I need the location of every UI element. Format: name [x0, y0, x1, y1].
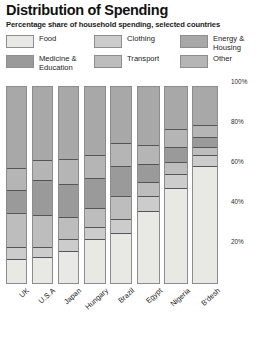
- y-tick-60: 60%: [231, 159, 244, 165]
- segment-clothing: [193, 156, 217, 168]
- legend-item-medicine-education[interactable]: Medicine & Education: [6, 54, 77, 72]
- segment-transport: [111, 197, 131, 221]
- x-axis-labels: UKU.S.AJapanHungaryBrazilEgyptNigeriaB'd…: [0, 286, 255, 338]
- y-axis: 100%80%60%40%20%: [231, 84, 255, 284]
- x-label-egypt: Egypt: [144, 286, 164, 305]
- segment-medicine-education: [7, 191, 26, 215]
- segment-clothing: [138, 197, 159, 213]
- spending-chart: Distribution of Spending Percentage shar…: [0, 0, 255, 338]
- segment-energy-housing: [59, 87, 78, 160]
- legend-label-clothing: Clothing: [127, 34, 155, 44]
- segment-clothing: [111, 220, 131, 234]
- segment-transport: [165, 163, 187, 175]
- legend-swatch-transport: [94, 55, 122, 68]
- segment-medicine-education: [165, 148, 187, 164]
- bar-japan[interactable]: [58, 86, 79, 284]
- segment-energy-housing: [85, 87, 105, 156]
- x-label-nigeria: Nigeria: [169, 286, 192, 308]
- bar-uk[interactable]: [6, 86, 27, 284]
- segment-clothing: [165, 175, 187, 189]
- segment-other: [85, 156, 105, 180]
- legend-label-energy-housing: Energy & Housing: [213, 34, 244, 52]
- segment-energy-housing: [193, 87, 217, 126]
- x-label-japan: Japan: [62, 286, 83, 306]
- x-label-hungary: Hungary: [83, 286, 110, 311]
- segment-energy-housing: [33, 87, 52, 161]
- segment-medicine-education: [193, 138, 217, 148]
- legend-swatch-other: [180, 55, 208, 68]
- segment-food: [111, 234, 131, 283]
- y-tick-100: 100%: [231, 79, 247, 85]
- legend-item-other[interactable]: Other: [180, 54, 232, 68]
- segment-medicine-education: [85, 179, 105, 208]
- y-tick-40: 40%: [231, 199, 244, 205]
- segment-transport: [138, 183, 159, 197]
- segment-food: [59, 252, 78, 283]
- segment-transport: [7, 214, 26, 247]
- segment-energy-housing: [7, 87, 26, 169]
- y-tick-80: 80%: [231, 119, 244, 125]
- y-tick-20: 20%: [231, 239, 244, 245]
- segment-other: [193, 126, 217, 138]
- segment-medicine-education: [33, 181, 52, 216]
- x-label-uk: UK: [17, 286, 31, 300]
- segment-clothing: [7, 248, 26, 260]
- legend-label-transport: Transport: [127, 54, 159, 64]
- chart-legend: Food Medicine & Education Clothing Trans…: [6, 34, 249, 76]
- segment-medicine-education: [138, 165, 159, 183]
- legend-swatch-medicine-education: [6, 55, 34, 68]
- legend-label-food: Food: [39, 34, 56, 44]
- legend-swatch-energy-housing: [180, 35, 208, 48]
- segment-transport: [85, 209, 105, 229]
- bar-brazil[interactable]: [110, 86, 132, 284]
- segment-other: [111, 144, 131, 168]
- segment-transport: [193, 148, 217, 156]
- segment-clothing: [59, 240, 78, 252]
- segment-other: [7, 169, 26, 191]
- legend-item-transport[interactable]: Transport: [94, 54, 159, 68]
- bar-u-s-a[interactable]: [32, 86, 53, 284]
- plot-area: [0, 84, 255, 284]
- segment-energy-housing: [111, 87, 131, 144]
- legend-item-food[interactable]: Food: [6, 34, 56, 48]
- x-label-brazil: Brazil: [116, 286, 136, 305]
- segment-clothing: [85, 228, 105, 240]
- x-label-u-s-a: U.S.A: [37, 286, 57, 306]
- page-title: Distribution of Spending: [6, 2, 168, 18]
- segment-transport: [59, 218, 78, 240]
- segment-food: [193, 167, 217, 283]
- bar-hungary[interactable]: [84, 86, 106, 284]
- segment-food: [33, 258, 52, 283]
- legend-item-energy-housing[interactable]: Energy & Housing: [180, 34, 244, 52]
- legend-label-medicine-education: Medicine & Education: [39, 54, 77, 72]
- bar-nigeria[interactable]: [164, 86, 188, 284]
- segment-medicine-education: [111, 167, 131, 196]
- legend-label-other: Other: [213, 54, 232, 64]
- segment-medicine-education: [59, 185, 78, 218]
- segment-food: [85, 240, 105, 283]
- segment-food: [165, 189, 187, 283]
- segment-energy-housing: [165, 87, 187, 130]
- segment-transport: [33, 216, 52, 247]
- segment-food: [138, 212, 159, 283]
- legend-swatch-clothing: [94, 35, 122, 48]
- bar-egypt[interactable]: [137, 86, 160, 284]
- segment-energy-housing: [138, 87, 159, 146]
- legend-item-clothing[interactable]: Clothing: [94, 34, 155, 48]
- segment-other: [33, 161, 52, 181]
- legend-swatch-food: [6, 35, 34, 48]
- segment-other: [59, 160, 78, 185]
- x-label-b-desh: B'desh: [199, 286, 222, 308]
- segment-clothing: [33, 248, 52, 258]
- segment-other: [165, 130, 187, 148]
- chart-subtitle: Percentage share of household spending, …: [6, 20, 220, 29]
- segment-food: [7, 260, 26, 284]
- segment-other: [138, 146, 159, 166]
- bar-b-desh[interactable]: [192, 86, 218, 284]
